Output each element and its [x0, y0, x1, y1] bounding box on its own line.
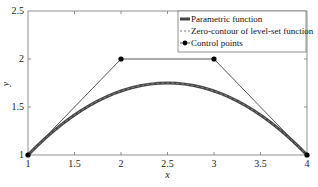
legend-item-zero-contour: Zero-contour of level-set function — [191, 26, 314, 36]
x-tick-label: 3 — [212, 158, 217, 169]
x-tick-label: 2.5 — [161, 158, 174, 169]
control-point-marker — [25, 152, 30, 157]
control-point-marker — [118, 56, 123, 61]
x-tick-label: 2 — [119, 158, 124, 169]
x-axis-label: x — [164, 169, 170, 180]
control-points — [25, 56, 309, 157]
y-tick-label: 1 — [19, 149, 24, 160]
legend-item-parametric: Parametric function — [191, 14, 263, 24]
y-tick-label: 2 — [19, 53, 24, 64]
legend: Parametric function Zero-contour of leve… — [178, 11, 314, 52]
x-tick-label: 1.5 — [68, 158, 81, 169]
x-tick-label: 3.5 — [254, 158, 267, 169]
y-axis-label: y — [0, 81, 11, 87]
x-tick-label: 1 — [26, 158, 31, 169]
legend-item-control-points: Control points — [191, 38, 243, 48]
x-tick-label: 4 — [305, 158, 310, 169]
chart-canvas: 1 1.5 2 2.5 3 3.5 4 1 1.5 2 2.5 x y Para… — [0, 0, 318, 187]
y-tick-label: 2.5 — [12, 5, 25, 16]
control-polygon-line — [28, 59, 307, 155]
y-tick-label: 1.5 — [12, 101, 25, 112]
legend-dot-icon — [183, 41, 188, 46]
control-point-marker — [304, 152, 309, 157]
control-point-marker — [211, 56, 216, 61]
parametric-function-curve — [28, 83, 307, 155]
